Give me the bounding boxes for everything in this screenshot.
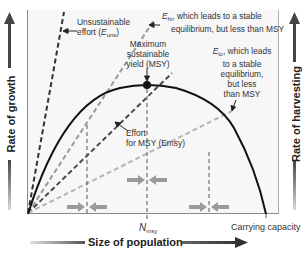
lo-effort-label: Elo, which leads to a stable equilibrium…	[210, 46, 274, 99]
equilibrium-lines	[87, 89, 209, 220]
emsy-label: Effort for MSY (Emsy)	[126, 128, 185, 148]
y-left-axis-title: Rate of growth	[5, 69, 17, 159]
msy-label: Maximum sustainable yield (MSY)	[122, 39, 174, 69]
lo-effort-line	[28, 111, 232, 213]
uns-effort-label: Unsustainable effort (Euns)	[77, 17, 130, 40]
msy-point	[143, 81, 151, 89]
stability-arrows	[67, 175, 229, 212]
carrying-capacity-label: Carrying capacity	[231, 222, 301, 232]
x-axis-title: Size of population	[88, 236, 183, 248]
y-right-axis-title: Rate of harvesting	[290, 65, 302, 163]
nmsy-tick-label: Nmsy	[139, 223, 157, 236]
hi-effort-label: Ehi, which leads to a stable equilibrium…	[162, 11, 284, 34]
